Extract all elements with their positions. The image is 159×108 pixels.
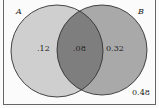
intersection-value: .08 [73, 44, 86, 53]
venn-diagram: A B .12 .08 0.32 0.48 [0, 0, 159, 108]
set-a-label: A [15, 7, 22, 16]
a-only-value: .12 [37, 44, 50, 53]
set-b-label: B [137, 7, 144, 16]
b-only-value: 0.32 [106, 44, 124, 53]
outside-value: 0.48 [132, 88, 150, 97]
